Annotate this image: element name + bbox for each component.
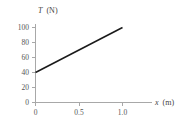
y-axis-ticks: [32, 28, 36, 103]
y-tick-label-0: 0: [25, 98, 29, 107]
x-axis-tick-labels: 0 0.5 1.0: [34, 108, 128, 117]
chart-container: 0 20 40 60 80 100 0 0.5 1.0 T (N) x (m): [0, 0, 180, 126]
x-axis-title-unit: (m): [163, 98, 175, 107]
line-chart: 0 20 40 60 80 100 0 0.5 1.0 T (N) x (m): [0, 0, 180, 126]
y-tick-label-40: 40: [22, 68, 30, 77]
x-axis-title: x (m): [154, 98, 174, 107]
y-axis-tick-labels: 0 20 40 60 80 100: [18, 23, 30, 107]
x-axis-title-variable: x: [154, 98, 159, 107]
x-axis-ticks: [36, 103, 123, 107]
y-tick-label-80: 80: [22, 38, 30, 47]
y-tick-label-100: 100: [18, 23, 30, 32]
y-tick-label-20: 20: [22, 83, 30, 92]
x-tick-label-1-0: 1.0: [118, 108, 128, 117]
x-tick-label-0-5: 0.5: [74, 108, 84, 117]
y-axis-title-unit: (N): [46, 6, 57, 15]
y-tick-label-60: 60: [22, 53, 30, 62]
y-axis-title-variable: T: [38, 6, 43, 15]
x-tick-label-0: 0: [34, 108, 38, 117]
y-axis-title: T (N): [38, 6, 58, 15]
data-series-tension: [36, 28, 123, 73]
